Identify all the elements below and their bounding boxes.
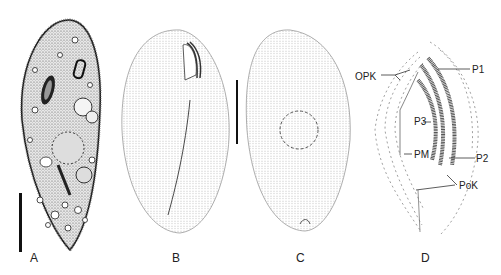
panel-label-B: B (172, 251, 180, 265)
label-P3: P3 (414, 116, 427, 127)
panel-D-oral-apparatus (375, 42, 478, 235)
figure-canvas: A B C (0, 0, 501, 275)
panel-B-ventral (122, 30, 229, 233)
panel-label-A: A (30, 251, 38, 265)
label-OPK: OPK (355, 71, 376, 82)
panel-label-C: C (296, 251, 305, 265)
panel-A-cell (22, 20, 101, 250)
panel-C-dorsal (246, 30, 350, 231)
panel-label-D: D (421, 251, 430, 265)
scale-bar-A (19, 193, 22, 252)
label-P1: P1 (472, 64, 485, 75)
label-PM: PM (414, 149, 429, 160)
label-PoK: PoK (459, 180, 478, 191)
label-P2: P2 (476, 153, 489, 164)
panel-D-leader-lines (381, 69, 475, 190)
scale-bar-BC (236, 80, 238, 144)
